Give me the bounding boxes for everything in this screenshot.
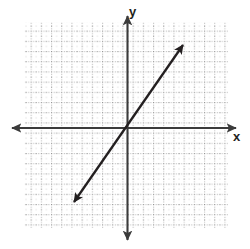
coordinate-plane-figure — [0, 0, 250, 249]
y-axis-label: y — [129, 5, 136, 18]
x-axis-label: x — [233, 130, 240, 143]
graph-canvas: y x — [0, 0, 250, 249]
grid-lines — [24, 22, 228, 228]
